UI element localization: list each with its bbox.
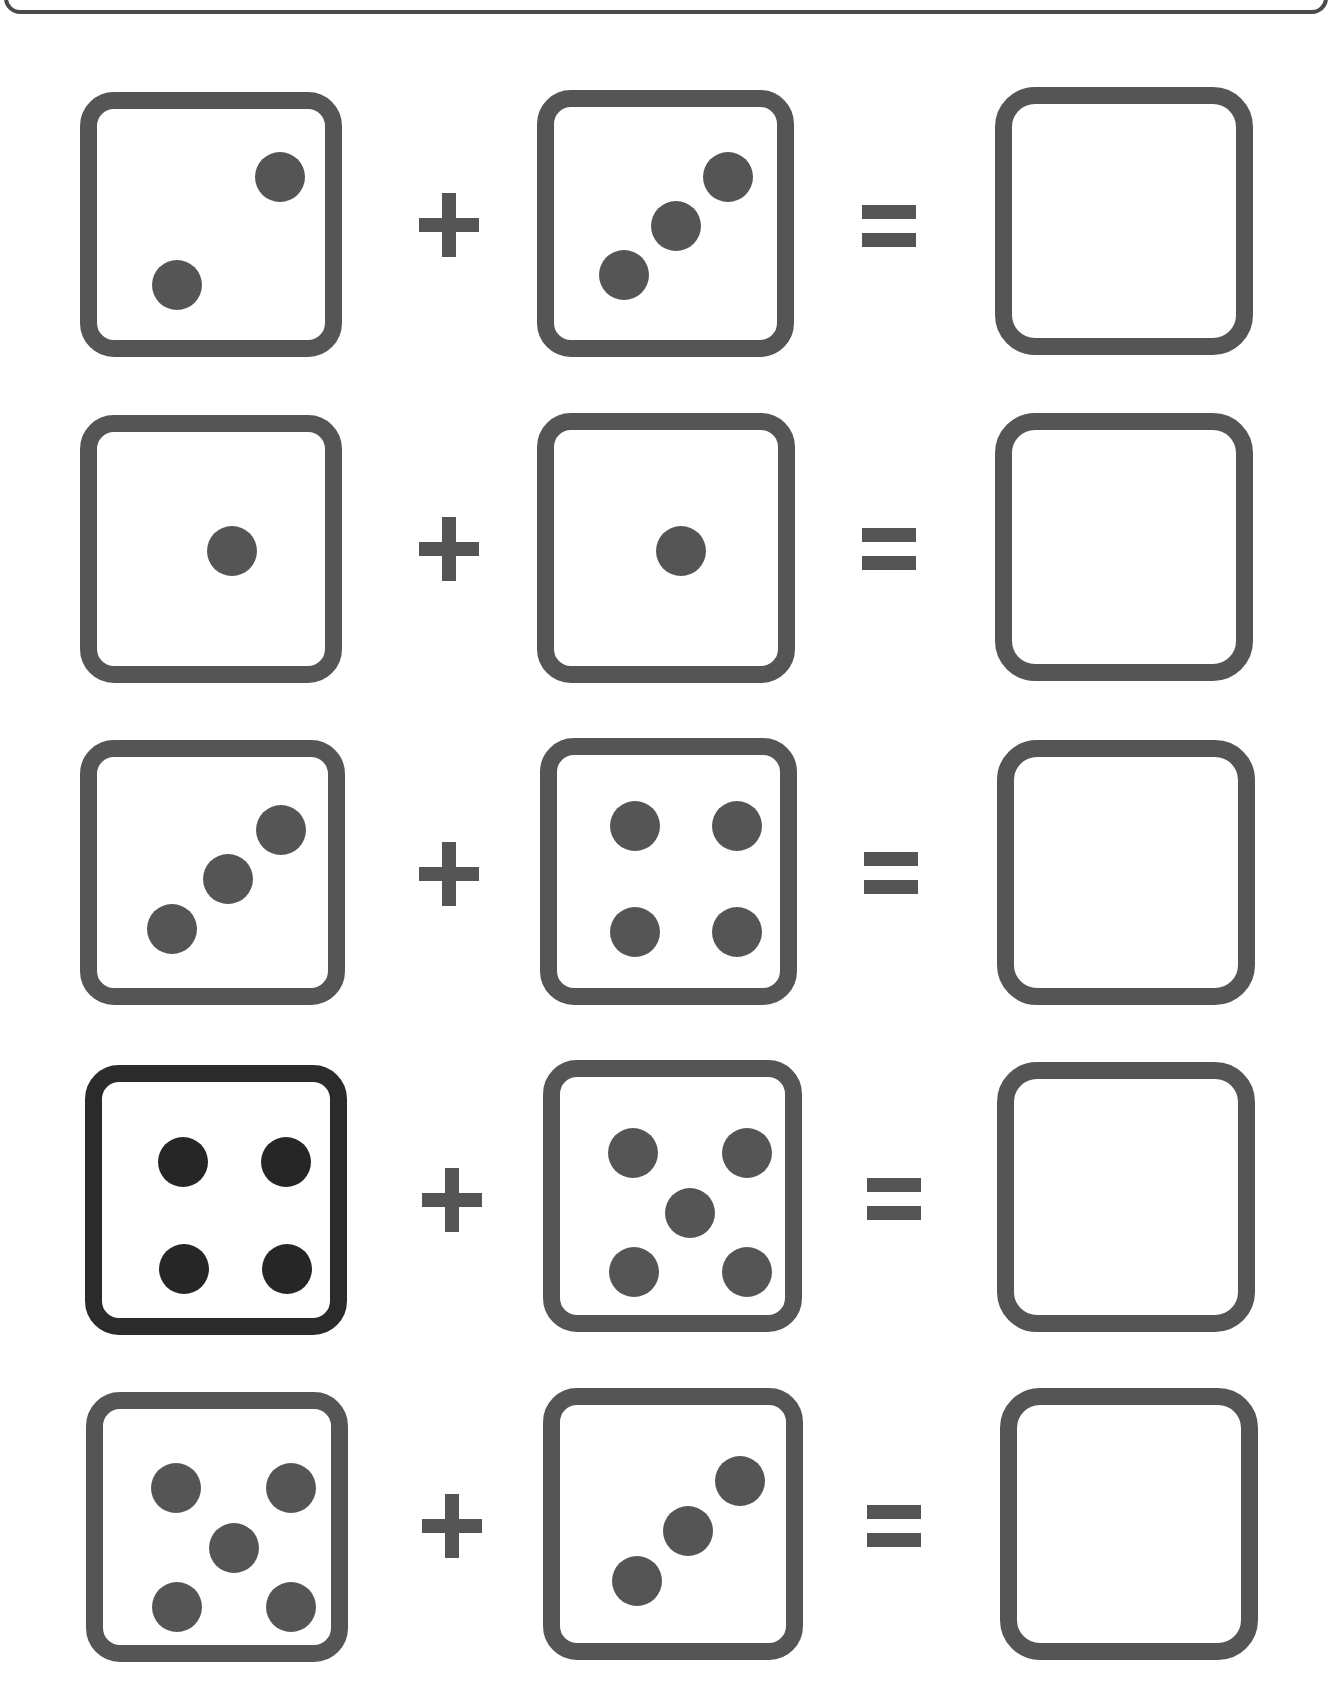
pip [722,1247,772,1297]
plus-sign-row-4: + [422,1168,482,1232]
plus-sign-row-5: + [422,1494,482,1558]
answer-box-row-2[interactable] [995,413,1253,681]
pip [207,526,257,576]
equals-sign-row-1: = [862,205,916,247]
pip [703,152,753,202]
pip [266,1582,316,1632]
pip [152,1582,202,1632]
plus-sign-row-1: + [419,193,479,257]
pip [608,1128,658,1178]
pip [256,805,306,855]
pip [712,907,762,957]
die-right-row-1: 3 [537,90,794,357]
die-left-row-1: 2 [80,92,342,357]
pip [665,1188,715,1238]
equals-sign-row-4: = [867,1178,921,1220]
pip [158,1137,208,1187]
pip [609,1247,659,1297]
die-right-row-5: 3 [543,1388,803,1660]
answer-box-row-3[interactable] [997,740,1255,1005]
pip [656,526,706,576]
pip [262,1244,312,1294]
pip [610,801,660,851]
answer-box-row-4[interactable] [997,1062,1255,1332]
pip [151,1463,201,1513]
pip [266,1463,316,1513]
answer-box-row-1[interactable] [995,87,1253,355]
pip [599,250,649,300]
die-right-row-3: 4 [540,738,797,1005]
die-left-row-5: 5 [86,1392,348,1662]
pip [147,904,197,954]
pip [152,260,202,310]
plus-sign-row-2: + [419,517,479,581]
pip [159,1244,209,1294]
pip [209,1523,259,1573]
pip [610,907,660,957]
die-left-row-3: 3 [80,740,345,1005]
plus-sign-row-3: + [419,842,479,906]
die-right-row-4: 5 [543,1060,802,1332]
pip [712,801,762,851]
top-frame-border [4,0,1328,14]
pip [612,1556,662,1606]
answer-box-row-5[interactable] [1000,1388,1258,1660]
pip [203,854,253,904]
die-left-row-2: 1 [80,415,342,683]
pip [663,1506,713,1556]
pip [651,201,701,251]
equals-sign-row-3: = [864,852,918,894]
pip [261,1137,311,1187]
pip [722,1128,772,1178]
die-right-row-2: 1 [537,413,795,683]
equals-sign-row-2: = [862,528,916,570]
pip [715,1456,765,1506]
die-left-row-4: 4 [85,1065,347,1335]
equals-sign-row-5: = [867,1505,921,1547]
pip [255,152,305,202]
